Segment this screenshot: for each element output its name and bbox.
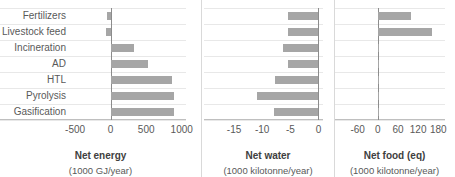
bar-ad <box>288 60 318 68</box>
axis-title-net-food: Net food (eq) <box>335 150 454 162</box>
category-label-gasification: Gasification <box>14 105 66 119</box>
bar-row: Fertilizers <box>68 8 186 24</box>
bar-pyrolysis <box>257 92 318 100</box>
bar-row: Incineration <box>68 40 186 56</box>
tick-label: 60 <box>392 122 403 138</box>
axis-title-net-energy: Net energy <box>0 150 201 162</box>
bar-pyrolysis <box>378 92 380 100</box>
tick-label: 500 <box>138 122 155 138</box>
category-label-ad: AD <box>52 57 66 71</box>
bar-row <box>220 40 323 56</box>
triple-bar-chart-figure: FertilizersLivestock feedIncinerationADH… <box>0 0 455 177</box>
bar-row <box>220 88 323 104</box>
bar-gasification <box>111 108 175 116</box>
axis-units-net-food: (1000 kilotonne/year) <box>335 165 454 177</box>
plot-area-net-food <box>351 8 445 120</box>
bar-row <box>351 104 445 120</box>
x-axis-ticks-net-food: -60060120180 <box>335 122 454 140</box>
bar-row <box>351 40 445 56</box>
bar-livestock-feed <box>106 28 110 36</box>
bar-htl <box>111 76 172 84</box>
bar-livestock-feed <box>288 28 318 36</box>
tick-label: -10 <box>255 122 269 138</box>
bar-row: Livestock feed <box>68 24 186 40</box>
tick-label: 0 <box>316 122 322 138</box>
x-axis-ticks-net-water: -15-10-50 <box>202 122 334 140</box>
chart-panel-net-food: -60060120180 Net food (eq) (1000 kiloton… <box>335 0 454 177</box>
category-label-incineration: Incineration <box>14 41 66 55</box>
tick-label: -500 <box>65 122 85 138</box>
axis-units-net-energy: (1000 GJ/year) <box>0 165 201 177</box>
bar-row: Pyrolysis <box>68 88 186 104</box>
bar-incineration <box>283 44 318 52</box>
x-axis-ticks-net-energy: -50005001000 <box>0 122 201 140</box>
bar-pyrolysis <box>111 92 174 100</box>
bar-row <box>220 72 323 88</box>
tick-label: 0 <box>375 122 381 138</box>
bar-row <box>351 56 445 72</box>
plot-area-net-energy: FertilizersLivestock feedIncinerationADH… <box>68 8 186 120</box>
tick-label: 120 <box>410 122 427 138</box>
bar-row <box>351 8 445 24</box>
bar-ad <box>111 60 148 68</box>
bar-row <box>351 88 445 104</box>
tick-label: -60 <box>350 122 364 138</box>
bar-ad <box>378 60 380 68</box>
tick-label: 180 <box>430 122 447 138</box>
tick-label: 0 <box>108 122 114 138</box>
tick-label: 1000 <box>171 122 193 138</box>
chart-panel-net-water: -15-10-50 Net water (1000 kilotonne/year… <box>202 0 335 177</box>
bar-row <box>220 56 323 72</box>
bar-fertilizers <box>107 12 111 20</box>
category-label-htl: HTL <box>47 73 66 87</box>
bar-row: HTL <box>68 72 186 88</box>
bar-incineration <box>111 44 134 52</box>
tick-label: -15 <box>227 122 241 138</box>
tick-label: -5 <box>286 122 295 138</box>
bar-row: AD <box>68 56 186 72</box>
bar-incineration <box>378 44 380 52</box>
chart-panel-net-energy: FertilizersLivestock feedIncinerationADH… <box>0 0 202 177</box>
bar-fertilizers <box>378 12 412 20</box>
bar-gasification <box>378 108 380 116</box>
bar-htl <box>275 76 318 84</box>
bar-row <box>351 24 445 40</box>
category-label-fertilizers: Fertilizers <box>23 9 66 23</box>
bar-row <box>220 8 323 24</box>
bar-fertilizers <box>288 12 318 20</box>
bar-htl <box>378 76 380 84</box>
bar-livestock-feed <box>378 28 432 36</box>
axis-units-net-water: (1000 kilotonne/year) <box>202 165 334 177</box>
bar-row <box>351 72 445 88</box>
bar-row <box>220 104 323 120</box>
category-label-livestock-feed: Livestock feed <box>2 25 66 39</box>
plot-area-net-water <box>220 8 323 120</box>
category-label-pyrolysis: Pyrolysis <box>26 89 66 103</box>
bar-row: Gasification <box>68 104 186 120</box>
axis-title-net-water: Net water <box>202 150 334 162</box>
bar-row <box>220 24 323 40</box>
bar-gasification <box>274 108 318 116</box>
